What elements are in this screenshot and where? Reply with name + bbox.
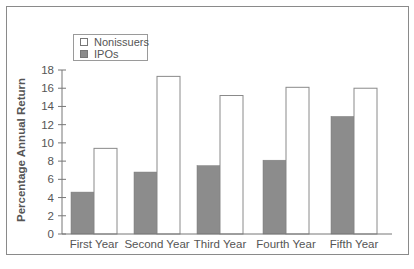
bar-nonissuers [286, 87, 309, 234]
bar-chart-plot: 024681012141618First YearSecond YearThir… [0, 0, 414, 269]
bar-ipos [197, 166, 220, 234]
y-tick-label: 10 [41, 137, 54, 149]
y-tick-label: 4 [48, 192, 55, 204]
legend-label: IPOs [94, 48, 118, 60]
x-tick-label: First Year [70, 238, 119, 250]
y-tick-label: 14 [41, 100, 54, 112]
bar-ipos [71, 192, 94, 234]
y-tick-label: 2 [48, 210, 54, 222]
legend-item-ipos: IPOs [80, 48, 118, 60]
bar-ipos [331, 116, 354, 234]
bar-nonissuers [94, 148, 117, 234]
legend: Nonissuers IPOs [73, 34, 148, 61]
x-tick-label: Fifth Year [330, 238, 379, 250]
x-tick-label: Third Year [194, 238, 247, 250]
bar-nonissuers [220, 96, 243, 234]
legend-item-nonissuers: Nonissuers [80, 36, 149, 48]
y-axis-label: Percentage Annual Return [15, 78, 27, 222]
y-tick-label: 12 [41, 119, 54, 131]
y-tick-label: 0 [48, 228, 54, 240]
x-tick-label: Fourth Year [256, 238, 316, 250]
legend-label: Nonissuers [94, 36, 149, 48]
bar-ipos [263, 160, 286, 234]
y-tick-label: 8 [48, 155, 54, 167]
y-tick-label: 18 [41, 64, 54, 76]
y-tick-label: 6 [48, 173, 54, 185]
x-tick-label: Second Year [124, 238, 189, 250]
bar-nonissuers [354, 88, 377, 234]
legend-swatch-nonissuers [80, 38, 88, 46]
bar-nonissuers [157, 76, 180, 234]
y-tick-label: 16 [41, 82, 54, 94]
legend-swatch-ipos [80, 50, 88, 58]
bar-ipos [134, 172, 157, 234]
